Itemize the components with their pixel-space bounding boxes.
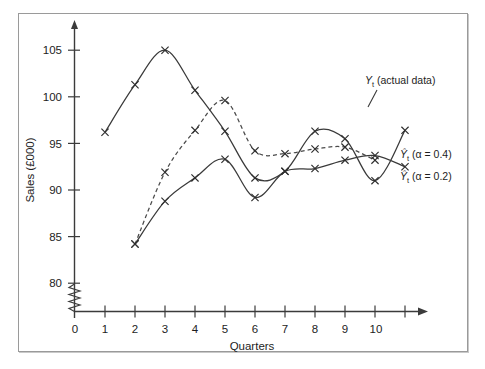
legend-alpha04-text: (α = 0.4) (409, 148, 452, 160)
x-tick-label-6: 6 (252, 323, 258, 335)
x-tick-label-8: 8 (312, 323, 318, 335)
x-tick-label-9: 9 (342, 323, 348, 335)
y-axis-title: Sales (£000) (24, 137, 36, 202)
legend-alpha02-text: (α = 0.2) (409, 170, 452, 182)
x-tick-label-3: 3 (162, 323, 168, 335)
series-markers-alpha-0-2 (131, 152, 408, 248)
data-point-alpha-0-2-q3 (161, 198, 168, 205)
x-tick-label-2: 2 (132, 323, 138, 335)
svg-text:Ŷt (α = 0.2): Ŷt (α = 0.2) (400, 170, 452, 185)
svg-text:Yt (actual data): Yt (actual data) (365, 74, 435, 89)
legend-alpha-0-2: Ŷt (α = 0.2) (400, 170, 452, 185)
x-axis-arrow-icon (418, 308, 428, 316)
svg-text:Ŷt (α = 0.4): Ŷt (α = 0.4) (400, 148, 452, 163)
x-tick-label-5: 5 (222, 323, 228, 335)
data-point-alpha-0-4-q4 (191, 127, 198, 134)
legend-actual-text: (actual data) (374, 74, 435, 86)
data-point-actual-q1 (101, 129, 108, 136)
data-point-actual-q2 (131, 81, 138, 88)
y-tick-label-100: 100 (43, 91, 62, 103)
data-point-actual-q8 (311, 128, 318, 135)
legend-actual-leader-line (368, 90, 377, 107)
y-tick-label-105: 105 (43, 44, 62, 56)
data-point-alpha-0-2-q4 (191, 174, 198, 181)
data-point-actual-q6 (251, 174, 258, 181)
data-point-actual-q11 (401, 127, 408, 134)
data-point-actual-q9 (341, 135, 348, 142)
y-axis-arrow-icon (71, 20, 78, 29)
data-point-actual-q5 (221, 128, 228, 135)
series-line-alpha-0-2 (135, 155, 405, 244)
x-axis-title: Quarters (230, 340, 275, 352)
series-group (105, 50, 405, 244)
x-tick-label-1: 1 (102, 323, 108, 335)
data-point-actual-q4 (191, 87, 198, 94)
y-tick-labels: 105 100 95 90 85 80 (43, 44, 62, 289)
data-point-alpha-0-2-q2 (131, 240, 138, 247)
series-line-alpha-0-4 (135, 100, 375, 244)
y-tick-label-80: 80 (49, 277, 62, 289)
x-tick-labels: 0 1 2 3 4 5 6 7 8 9 10 (72, 323, 383, 335)
y-axis (71, 20, 78, 318)
y-tick-label-90: 90 (49, 184, 62, 196)
series-line-actual (105, 50, 405, 181)
x-tick-label-10: 10 (370, 323, 383, 335)
x-tick-label-4: 4 (192, 323, 199, 335)
data-point-actual-q7 (281, 168, 288, 175)
data-point-alpha-0-4-q6 (251, 147, 258, 154)
figure-root: 105 100 95 90 85 80 0 1 2 3 4 (0, 0, 485, 369)
series-markers-actual (101, 47, 408, 185)
legend-alpha-0-4: Ŷt (α = 0.4) (400, 148, 452, 163)
sales-forecast-line-chart: 105 100 95 90 85 80 0 1 2 3 4 (0, 0, 485, 369)
y-tick-label-95: 95 (49, 138, 62, 150)
x-tick-label-0: 0 (72, 323, 78, 335)
data-point-alpha-0-4-q3 (161, 169, 168, 176)
x-tick-label-7: 7 (282, 323, 288, 335)
legend-actual: Yt (actual data) (365, 74, 435, 107)
series-markers-alpha-0-4 (131, 97, 378, 248)
y-tick-label-85: 85 (49, 231, 62, 243)
